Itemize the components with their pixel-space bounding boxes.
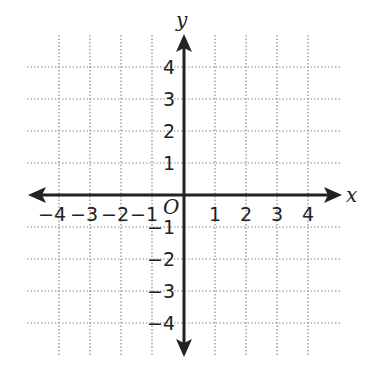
svg-text:−2: −2 xyxy=(147,248,175,270)
svg-text:2: 2 xyxy=(163,120,175,142)
svg-text:−2: −2 xyxy=(101,203,129,225)
svg-text:4: 4 xyxy=(302,203,314,225)
svg-text:4: 4 xyxy=(163,56,175,78)
coordinate-plane: y x O −4 −3 −2 −1 1 2 3 4 4 3 2 1 −1 −2 … xyxy=(0,0,371,372)
svg-text:2: 2 xyxy=(240,203,252,225)
y-axis-label: y xyxy=(175,8,188,32)
svg-text:1: 1 xyxy=(209,203,221,225)
svg-text:−1: −1 xyxy=(147,216,175,238)
svg-text:−3: −3 xyxy=(70,203,98,225)
x-axis-label: x xyxy=(346,183,357,207)
svg-text:−3: −3 xyxy=(147,280,175,302)
svg-text:−4: −4 xyxy=(147,312,175,334)
svg-text:3: 3 xyxy=(271,203,283,225)
svg-text:1: 1 xyxy=(163,152,175,174)
svg-text:−4: −4 xyxy=(38,203,66,225)
svg-text:3: 3 xyxy=(163,88,175,110)
